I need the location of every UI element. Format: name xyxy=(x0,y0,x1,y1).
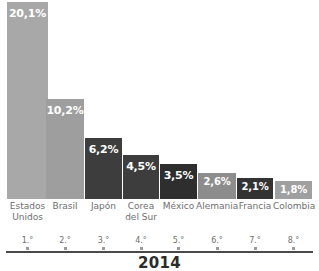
rank-tick-1 xyxy=(26,247,29,250)
rank-tick-5 xyxy=(177,247,180,250)
category-label-alemania: Alemania xyxy=(196,201,238,212)
category-label-corea-del-sur: Corea del Sur xyxy=(123,201,159,223)
category-label-line1: Japón xyxy=(85,201,122,212)
bar-francia: 2,1% xyxy=(237,178,273,199)
bar-value-label: 10,2% xyxy=(46,99,83,116)
category-label-line2: Unidos xyxy=(7,212,48,223)
category-axis: Estados Unidos Brasil Japón Corea del Su… xyxy=(0,201,319,235)
x-axis-line xyxy=(6,251,313,253)
bar-group-4: 4,5% xyxy=(123,155,159,199)
bar-japon: 6,2% xyxy=(85,138,122,199)
category-label-japon: Japón xyxy=(85,201,122,212)
rank-tick-6 xyxy=(216,247,219,250)
rank-label-2: 2.° xyxy=(46,236,84,245)
bar-group-2: 10,2% xyxy=(46,99,84,199)
bar-group-6: 2,6% xyxy=(198,173,236,199)
category-label-line1: Brasil xyxy=(46,201,84,212)
rank-label-7: 7.° xyxy=(237,236,273,245)
rank-label-6: 6.° xyxy=(198,236,236,245)
category-label-line1: Corea xyxy=(123,201,159,212)
bar-value-label: 4,5% xyxy=(126,155,156,172)
bar-mexico: 3,5% xyxy=(160,164,197,199)
rank-tick-7 xyxy=(254,247,257,250)
bar-value-label: 6,2% xyxy=(89,138,119,155)
bar-value-label: 1,8% xyxy=(280,181,307,195)
category-label-line1: Estados xyxy=(7,201,48,212)
bar-value-label: 20,1% xyxy=(9,2,46,19)
x-axis-title: 2014 xyxy=(0,254,319,271)
rank-label-8: 8.° xyxy=(275,236,312,245)
rank-axis: 1.° 2.° 3.° 4.° 5.° 6.° 7.° 8.° xyxy=(0,236,319,252)
category-label-line1: Alemania xyxy=(196,201,238,212)
category-label-francia: Francia xyxy=(237,201,273,212)
bar-group-3: 6,2% xyxy=(85,138,122,199)
rank-label-3: 3.° xyxy=(85,236,122,245)
bar-group-8: 1,8% xyxy=(275,181,312,199)
rank-tick-2 xyxy=(64,247,67,250)
rank-label-1: 1.° xyxy=(7,236,48,245)
category-label-line1: Francia xyxy=(237,201,273,212)
category-label-line1: México xyxy=(160,201,197,212)
plot-area: 20,1% 10,2% 6,2% 4,5% 3,5% 2,6% xyxy=(0,0,319,199)
bar-group-1: 20,1% xyxy=(7,2,48,199)
bar-alemania: 2,6% xyxy=(198,173,236,199)
category-label-colombia: Colombia xyxy=(273,201,315,212)
bar-brasil: 10,2% xyxy=(46,99,84,199)
category-label-estados-unidos: Estados Unidos xyxy=(7,201,48,223)
bar-group-7: 2,1% xyxy=(237,178,273,199)
rank-tick-4 xyxy=(140,247,143,250)
rank-tick-8 xyxy=(292,247,295,250)
bar-value-label: 3,5% xyxy=(164,164,194,181)
bar-estados-unidos: 20,1% xyxy=(7,2,48,199)
bar-value-label: 2,1% xyxy=(242,178,269,192)
category-label-line1: Colombia xyxy=(273,201,315,212)
bar-group-5: 3,5% xyxy=(160,164,197,199)
bar-colombia: 1,8% xyxy=(275,181,312,199)
rank-label-5: 5.° xyxy=(160,236,197,245)
bar-chart: 20,1% 10,2% 6,2% 4,5% 3,5% 2,6% xyxy=(0,0,319,271)
category-label-brasil: Brasil xyxy=(46,201,84,212)
category-label-line2: del Sur xyxy=(123,212,159,223)
bar-corea-del-sur: 4,5% xyxy=(123,155,159,199)
rank-tick-3 xyxy=(102,247,105,250)
rank-label-4: 4.° xyxy=(123,236,159,245)
category-label-mexico: México xyxy=(160,201,197,212)
bar-value-label: 2,6% xyxy=(204,173,231,187)
